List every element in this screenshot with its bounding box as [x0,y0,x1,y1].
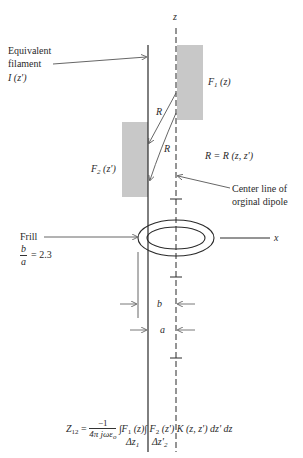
integral-limit-2: Δz'2 [152,436,167,449]
filament-pointer-arrow [53,57,146,64]
f2-label: F2 (z') [91,163,116,178]
filament-label-line3: I (z') [8,72,27,84]
ratio-numerator: b [21,244,26,254]
r-label-1: R [156,106,162,118]
filament-label-line2: filament [8,58,41,70]
f2-region [122,122,148,197]
equation-fraction: −1 4π jωεo [89,418,116,442]
frill-label: Frill [20,231,37,243]
f1-label: F1 (z) [208,76,231,91]
ratio-value: = 2.3 [31,249,52,261]
center-line-pointer-arrow [178,176,230,188]
x-axis-label: x [274,232,278,244]
r-arrow-1 [149,93,176,143]
dimension-a-label: a [160,324,165,336]
dipole-diagram [0,0,303,458]
f1-region [177,45,203,120]
impedance-equation: Z12 = −1 4π jωεo ∫F1 (z)∫ F2 (z') K (z, … [66,418,233,442]
filament-label-line1: Equivalent [8,45,51,57]
ratio-denominator: a [21,257,26,267]
z-axis-label: z [173,11,177,23]
ratio-fraction: b a [20,244,27,267]
r-relation-label: R = R (z, z') [205,150,253,162]
center-line-label-line2: orginal dipole [232,196,288,208]
r-arrow-2 [150,113,176,180]
r-label-2: R [164,143,170,155]
center-line-label-line1: Center line of [232,183,287,195]
dimension-b-label: b [157,298,162,310]
integral-limit-1: Δz1 [126,436,139,449]
